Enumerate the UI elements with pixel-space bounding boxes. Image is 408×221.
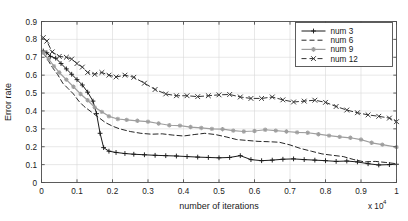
data-point-marker: [135, 119, 139, 123]
x-tick-label: 0.1: [71, 187, 83, 196]
x-tick-label: 0.5: [213, 187, 225, 196]
x-axis-multiplier: x 10: [368, 202, 384, 211]
data-point-marker: [263, 128, 267, 132]
legend-label-2: num 9: [331, 45, 354, 54]
x-tick-label: 1: [394, 187, 399, 196]
x-tick-label: 0.2: [107, 187, 119, 196]
x-tick-label: 0.3: [142, 187, 154, 196]
y-tick-label: 0: [32, 179, 37, 188]
y-tick-label: 0.3: [26, 125, 38, 134]
data-point-marker: [116, 117, 120, 121]
data-point-marker: [78, 92, 82, 96]
data-point-marker: [338, 135, 342, 139]
legend-label-1: num 6: [331, 36, 354, 45]
data-point-marker: [188, 125, 192, 129]
data-point-marker: [156, 121, 160, 125]
y-tick-label: 0.1: [26, 161, 38, 170]
chart-figure: 00.10.20.30.40.50.60.70.80.9100.10.20.30…: [0, 0, 408, 221]
legend-label-0: num 3: [331, 27, 354, 36]
x-tick-label: 0.6: [249, 187, 261, 196]
data-point-marker: [220, 127, 224, 131]
data-point-marker: [380, 142, 384, 146]
x-tick-label: 0: [39, 187, 44, 196]
data-point-marker: [348, 136, 352, 140]
data-point-marker: [57, 70, 61, 74]
legend-label-3: num 12: [331, 55, 359, 64]
data-point-marker: [46, 57, 50, 61]
x-axis-title: number of iterations: [179, 201, 259, 211]
data-point-marker: [52, 64, 56, 68]
data-point-marker: [178, 123, 182, 127]
y-axis-title: Error rate: [3, 83, 13, 121]
data-point-marker: [199, 126, 203, 130]
y-tick-label: 0.5: [26, 89, 38, 98]
data-point-marker: [93, 105, 97, 109]
data-point-marker: [242, 129, 246, 133]
y-tick-label: 0.7: [26, 53, 38, 62]
data-point-marker: [306, 131, 310, 135]
data-point-marker: [274, 128, 278, 132]
data-point-marker: [100, 110, 104, 114]
data-point-marker: [311, 47, 316, 52]
data-point-marker: [252, 129, 256, 133]
y-tick-label: 0.2: [26, 143, 38, 152]
y-tick-label: 0.4: [26, 107, 38, 116]
y-tick-label: 0.6: [26, 71, 38, 80]
data-point-marker: [210, 127, 214, 131]
x-tick-label: 0.9: [355, 187, 367, 196]
chart-legend[interactable]: num 3num 6num 9num 12: [296, 23, 393, 67]
y-tick-label: 0.9: [26, 18, 38, 27]
data-point-marker: [85, 98, 89, 102]
data-point-marker: [167, 123, 171, 127]
y-tick-label: 0.8: [26, 35, 38, 44]
data-point-marker: [71, 85, 75, 89]
x-tick-label: 0.8: [320, 187, 332, 196]
data-point-marker: [284, 129, 288, 133]
data-point-marker: [327, 133, 331, 137]
x-tick-label: 0.4: [178, 187, 190, 196]
data-point-marker: [107, 114, 111, 118]
data-point-marker: [295, 130, 299, 134]
line-chart: 00.10.20.30.40.50.60.70.80.9100.10.20.30…: [0, 0, 408, 221]
x-tick-label: 0.7: [284, 187, 296, 196]
data-point-marker: [146, 119, 150, 123]
data-point-marker: [359, 137, 363, 141]
data-point-marker: [369, 141, 373, 145]
data-point-marker: [316, 132, 320, 136]
data-point-marker: [64, 77, 68, 81]
data-point-marker: [231, 128, 235, 132]
